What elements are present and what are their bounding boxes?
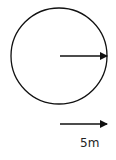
scale-label: 5m — [80, 136, 99, 150]
